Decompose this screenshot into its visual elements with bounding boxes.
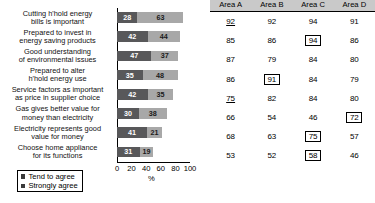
table-cell: 68	[210, 132, 251, 141]
table-cell: 63	[251, 132, 292, 141]
chart-row: Service factors as important as price in…	[0, 85, 206, 104]
chart-row: Electricity represents good value for mo…	[0, 123, 206, 142]
x-tick-label: 40	[142, 164, 150, 173]
table-cell: 46	[293, 113, 334, 122]
legend-swatch-tend-icon	[21, 174, 25, 178]
table-cell: 58	[293, 150, 334, 161]
stacked-bar: 4121	[117, 127, 162, 138]
bar-wrap: 4244	[117, 27, 204, 46]
chart-row: Cutting h'hold energy bills is important…	[0, 8, 206, 27]
chart-row: Prepared to invest in energy saving prod…	[0, 27, 206, 46]
bar-segment-tend-to-agree: 37	[151, 51, 178, 62]
table-cell: 86	[210, 75, 251, 84]
table-cell: 82	[251, 94, 292, 103]
x-tick-label: 20	[127, 164, 135, 173]
table-cell: 84	[293, 75, 334, 84]
table-cell: 72	[334, 112, 375, 123]
table-cell: 86	[251, 36, 292, 45]
bar-segment-tend-to-agree: 63	[137, 12, 183, 23]
table-row: 92929491	[210, 12, 375, 31]
table-row: 53525846	[210, 146, 375, 165]
chart-legend: Tend to agree Strongly agree	[17, 170, 83, 192]
category-label: Prepared to invest in energy saving prod…	[0, 29, 117, 45]
bar-wrap: 3548	[117, 66, 204, 85]
table-cell: 84	[293, 55, 334, 64]
x-axis-label: %	[148, 174, 155, 183]
stacked-bar: 3119	[117, 147, 153, 158]
area-comparison-table: Area AArea BArea CArea D 929294918586948…	[206, 0, 375, 203]
table-cell: 91	[334, 17, 375, 26]
bar-wrap: 3038	[117, 104, 204, 123]
table-row: 87798480	[210, 50, 375, 69]
x-tick-label: 80	[171, 164, 179, 173]
chart-row: Prepared to alter h'hold energy use3548	[0, 66, 206, 85]
table-row: 86918479	[210, 70, 375, 89]
table-cell: 54	[251, 113, 292, 122]
chart-row: Choose home appliance for its functions3…	[0, 142, 206, 161]
table-column-header: Area A	[210, 0, 251, 11]
chart-figure: Cutting h'hold energy bills is important…	[0, 0, 375, 203]
category-label: Prepared to alter h'hold energy use	[0, 67, 117, 83]
legend-item-strongly-agree: Strongly agree	[21, 181, 78, 190]
legend-label-strongly: Strongly agree	[28, 181, 77, 190]
table-cell: 91	[251, 74, 292, 85]
table-cell: 53	[210, 151, 251, 160]
table-cell: 87	[210, 55, 251, 64]
table-cell: 84	[293, 94, 334, 103]
legend-item-tend-to-agree: Tend to agree	[21, 172, 78, 181]
bar-segment-tend-to-agree: 44	[148, 31, 180, 42]
table-row: 66544672	[210, 108, 375, 127]
bar-segment-strongly-agree: 42	[117, 31, 148, 42]
bar-segment-strongly-agree: 35	[117, 70, 143, 81]
table-column-header: Area C	[293, 0, 334, 11]
table-row: 68637557	[210, 127, 375, 146]
category-label: Good understanding of environmental issu…	[0, 48, 117, 64]
category-label: Electricity represents good value for mo…	[0, 125, 117, 141]
bar-wrap: 4737	[117, 46, 204, 65]
table-body: 9292949185869486877984808691847975828480…	[210, 12, 375, 166]
table-column-header: Area D	[334, 0, 375, 11]
table-cell: 85	[210, 36, 251, 45]
stacked-bar: 4737	[117, 51, 178, 62]
x-axis-ticks: 020406080100	[117, 164, 190, 174]
table-cell: 94	[293, 35, 334, 46]
chart-rows: Cutting h'hold energy bills is important…	[0, 8, 206, 162]
bar-segment-tend-to-agree: 19	[140, 147, 154, 158]
table-cell: 80	[334, 94, 375, 103]
bar-segment-tend-to-agree: 35	[148, 89, 174, 100]
bar-segment-strongly-agree: 41	[117, 127, 147, 138]
category-label: Choose home appliance for its functions	[0, 144, 117, 160]
category-label: Cutting h'hold energy bills is important	[0, 10, 117, 26]
bar-segment-strongly-agree: 28	[117, 12, 137, 23]
bar-wrap: 4235	[117, 85, 204, 104]
table-row: 75828480	[210, 89, 375, 108]
x-tick-label: 100	[184, 164, 197, 173]
table-row: 85869486	[210, 31, 375, 50]
table-cell: 92	[251, 17, 292, 26]
stacked-bar: 4244	[117, 31, 180, 42]
bar-segment-strongly-agree: 47	[117, 51, 151, 62]
category-label: Gas gives better value for money than el…	[0, 105, 117, 121]
bar-segment-strongly-agree: 30	[117, 108, 139, 119]
category-label: Service factors as important as price in…	[0, 86, 117, 102]
chart-row: Good understanding of environmental issu…	[0, 46, 206, 65]
x-tick-label: 0	[115, 164, 119, 173]
bar-segment-tend-to-agree: 21	[147, 127, 162, 138]
stacked-bar: 2863	[117, 12, 183, 23]
legend-label-tend: Tend to agree	[28, 172, 74, 181]
stacked-bar: 3038	[117, 108, 167, 119]
bar-segment-strongly-agree: 42	[117, 89, 148, 100]
table-cell: 92	[210, 17, 251, 26]
table-cell: 94	[293, 17, 334, 26]
x-tick-label: 60	[157, 164, 165, 173]
stacked-bar-chart: Cutting h'hold energy bills is important…	[0, 0, 206, 203]
bar-wrap: 3119	[117, 142, 204, 161]
table-cell: 79	[251, 55, 292, 64]
table-cell: 46	[334, 151, 375, 160]
table-cell: 66	[210, 113, 251, 122]
chart-row: Gas gives better value for money than el…	[0, 104, 206, 123]
table-cell: 86	[334, 36, 375, 45]
table-column-header: Area B	[251, 0, 292, 11]
stacked-bar: 3548	[117, 70, 178, 81]
table-cell: 79	[334, 75, 375, 84]
